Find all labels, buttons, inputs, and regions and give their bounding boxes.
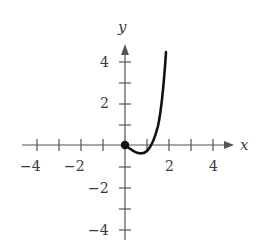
y-tick-label: 2 [100, 95, 109, 111]
x-axis-arrow-icon [224, 141, 234, 149]
x-axis-label: x [240, 136, 249, 154]
closed-endpoint-dot [121, 141, 129, 149]
function-graph: y x −4 −2 2 4 4 2 −2 −4 [0, 0, 265, 250]
y-tick-label: 4 [100, 54, 109, 70]
x-tick-label: −2 [64, 158, 85, 174]
y-axis-label: y [117, 18, 127, 36]
y-tick-label: −2 [88, 180, 109, 196]
function-curve [125, 52, 166, 153]
x-tick-label: −4 [20, 158, 41, 174]
y-axis-arrow-icon [121, 44, 129, 55]
y-tick-label: −4 [88, 222, 109, 238]
x-tick-label: 2 [165, 158, 174, 174]
x-tick-label: 4 [209, 158, 218, 174]
